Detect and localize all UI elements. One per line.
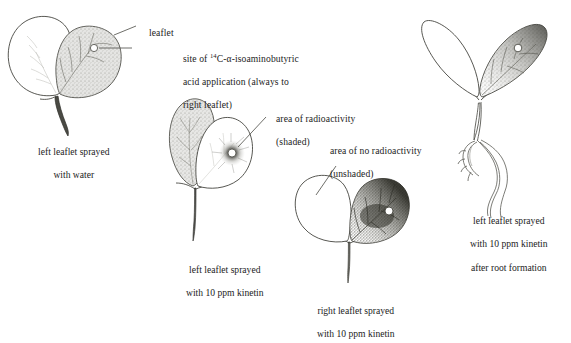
callout-application-line1-pre: site of xyxy=(183,53,210,64)
application-site-marker xyxy=(514,44,522,52)
caption-specimen-right-kinetin: right leaflet sprayed with 10 ppm kineti… xyxy=(275,293,427,343)
caption-left-kinetin-line1: left leaflet sprayed xyxy=(189,264,260,275)
callout-radioactivity-line1: area of radioactivity xyxy=(276,113,355,124)
caption-right-kinetin-line2: with 10 ppm kinetin xyxy=(317,328,395,339)
callout-application-line2: acid application (always to xyxy=(183,76,289,87)
application-site-marker xyxy=(90,44,97,51)
callout-leaflet-text: leaflet xyxy=(149,27,174,38)
caption-root-formation-line1: left leaflet sprayed xyxy=(473,215,544,226)
callout-no-radioactivity-line1: area of no radioactivity xyxy=(330,145,422,156)
petiole xyxy=(55,96,68,136)
caption-root-formation-line2: with 10 ppm kinetin xyxy=(470,238,548,249)
isotope-mass-number: 14 xyxy=(210,52,217,59)
callout-leaflet: leaflet xyxy=(139,15,174,50)
caption-specimen-water: left leaflet sprayed with water xyxy=(4,134,134,193)
application-site-marker xyxy=(228,149,236,157)
callout-application-line1-post: C-α-isoaminobutyric xyxy=(217,53,299,64)
petiole xyxy=(348,242,350,283)
caption-water-line1: left leaflet sprayed xyxy=(38,146,109,157)
caption-water-line2: with water xyxy=(53,169,94,180)
specimen-root-formation-drawing xyxy=(422,21,547,218)
callout-area-no-radioactivity: area of no radioactivity (unshaded) xyxy=(320,133,422,191)
callout-no-radioactivity-line2: (unshaded) xyxy=(330,168,374,179)
callout-application-line3: right leaflet) xyxy=(183,99,232,110)
specimen-water-drawing xyxy=(8,16,136,136)
caption-specimen-root-formation: left leaflet sprayed with 10 ppm kinetin… xyxy=(437,203,571,286)
caption-specimen-left-kinetin: left leaflet sprayed with 10 ppm kinetin xyxy=(145,252,295,311)
petiole xyxy=(193,188,196,241)
caption-left-kinetin-line2: with 10 ppm kinetin xyxy=(186,287,264,298)
left-leaflet-unshaded xyxy=(422,21,479,97)
callout-radioactivity-line2: (shaded) xyxy=(276,136,310,147)
leader-leaflet xyxy=(114,26,136,35)
caption-root-formation-line3: after root formation xyxy=(471,262,547,273)
application-site-marker xyxy=(385,207,393,215)
caption-right-kinetin-line1: right leaflet sprayed xyxy=(317,305,394,316)
